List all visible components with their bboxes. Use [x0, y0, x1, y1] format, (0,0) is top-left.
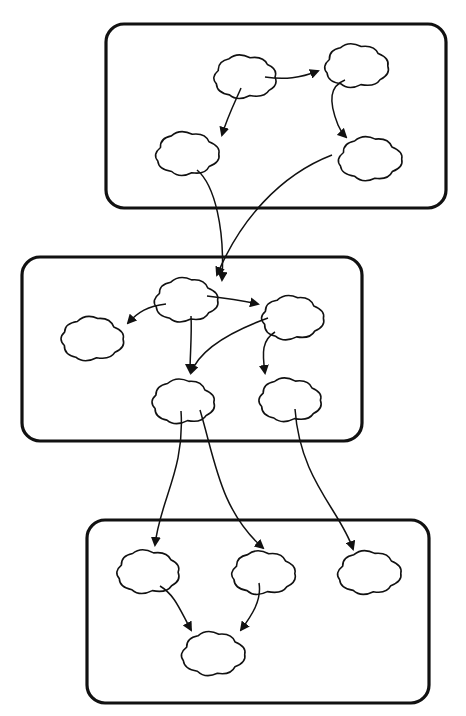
edge-m4-to-b1 [155, 411, 181, 545]
cloud-node-t3 [156, 132, 220, 176]
edge-m2-to-m4 [191, 318, 268, 373]
diagram-canvas [0, 0, 466, 716]
group-box-top [106, 24, 446, 208]
edge-t2-to-t4 [332, 80, 346, 137]
edge-m5-to-b3 [295, 409, 353, 549]
cloud-node-m3 [61, 316, 124, 360]
cloud-node-m1 [154, 278, 218, 322]
cloud-node-m4 [152, 379, 214, 424]
edge-m4-to-b2 [200, 410, 263, 548]
cloud-nodes [61, 44, 402, 676]
cloud-node-b3 [338, 551, 402, 595]
cloud-node-t4 [338, 137, 402, 181]
edge-t1-to-t2 [265, 71, 318, 78]
edge-m2-to-m5 [263, 332, 275, 373]
edge-m1-to-m2 [207, 296, 258, 304]
cloud-node-b2 [232, 551, 296, 595]
edge-m1-to-m4 [190, 316, 191, 372]
edge-b1-to-b4 [160, 586, 191, 630]
edge-t3-to-m1 [197, 170, 223, 280]
group-box-bottom [87, 520, 429, 703]
cloud-node-m2 [262, 295, 324, 339]
layered-cloud-diagram [0, 0, 466, 716]
edge-t1-to-t3 [222, 88, 241, 135]
cloud-node-b4 [181, 632, 245, 676]
group-boxes [22, 24, 446, 703]
cloud-node-b1 [117, 550, 179, 594]
cloud-node-t2 [325, 44, 389, 88]
group-box-middle [22, 257, 362, 441]
cloud-node-m5 [259, 378, 321, 422]
edges [128, 71, 353, 630]
